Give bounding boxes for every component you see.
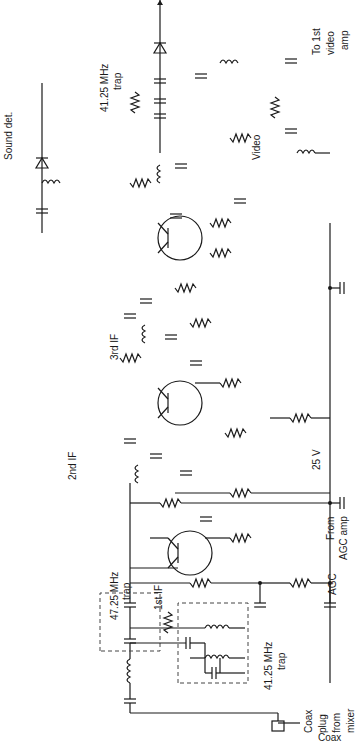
label-output-2: video — [325, 31, 336, 55]
label-q2: 2nd IF — [67, 452, 78, 480]
resistor-ra10 — [130, 579, 260, 587]
label-output-1: To 1st — [311, 28, 322, 55]
capacitor-ca14 — [200, 517, 212, 521]
inductor-la54 — [220, 60, 238, 63]
capacitor-ca18 — [180, 471, 192, 475]
inductor-la76 — [297, 150, 330, 153]
resistor-ra6 — [164, 612, 172, 633]
transistor-q3 — [158, 216, 202, 260]
label-trap-video-1: 41.25 MHz — [99, 64, 110, 112]
capacitor-ca11 — [254, 583, 266, 607]
inductor-la20 — [130, 465, 138, 493]
inductor-la28 — [142, 325, 145, 343]
inductor-la39 — [157, 165, 160, 183]
inductor-la8 — [130, 625, 245, 628]
transistor-q2 — [158, 381, 202, 425]
resistor-ra33 — [175, 284, 196, 292]
label-q1: 1st IF — [153, 585, 164, 610]
capacitor-ca22 — [150, 454, 162, 458]
resistor-ra16 — [130, 499, 330, 507]
label-trap-4725-2: trap — [121, 582, 132, 600]
resistor-ra48 — [131, 92, 139, 113]
capacitor-ca4 — [124, 603, 136, 607]
label-coax-1: Coax — [303, 710, 314, 733]
label-agc: AGC — [327, 573, 338, 595]
label-output-3: amp — [339, 30, 350, 50]
label-q3: 3rd IF — [109, 334, 120, 360]
resistor-ra13 — [205, 534, 251, 542]
capacitor-ca1 — [124, 683, 278, 713]
trap-41-25-input-box — [178, 603, 248, 683]
resistor-ra23 — [225, 429, 246, 437]
capacitor-ca21 — [124, 439, 136, 443]
resistor-ra67 — [271, 97, 279, 118]
capacitor-ca29 — [124, 314, 136, 318]
resistor-ra27 — [120, 354, 141, 362]
resistor-ra38 — [130, 179, 151, 187]
inductor-la42 — [42, 180, 60, 183]
label-agc-amp: AGC amp — [338, 516, 349, 560]
capacitor-ca51 — [195, 74, 207, 78]
inductor-la2 — [127, 647, 130, 683]
resistor-ra35 — [210, 219, 231, 227]
capacitor-ca7 — [205, 667, 245, 679]
capacitor-ca31 — [140, 299, 152, 303]
capacitor-ca30 — [165, 335, 177, 339]
capacitor-ca70 — [330, 282, 344, 294]
resistor-ra68 — [230, 134, 251, 142]
transistor-q1 — [130, 531, 212, 575]
label-coax-3: from — [331, 713, 342, 733]
capacitor-ca72 — [330, 497, 344, 509]
capacitor-ca69 — [285, 129, 297, 133]
resistor-ra25 — [195, 379, 241, 387]
capacitor-ca40 — [175, 164, 187, 168]
resistor-ra34 — [210, 249, 231, 257]
capacitor-ca36 — [234, 199, 246, 203]
label-agc-from: From — [325, 517, 336, 540]
output-arrow-icon — [157, 0, 163, 5]
label-trap-video-2: trap — [112, 72, 123, 90]
resistor-ra32 — [190, 319, 211, 327]
coax-plug — [272, 713, 284, 731]
label-coax-2: plug — [317, 714, 328, 733]
capacitor-ca73 — [130, 637, 205, 649]
label-coax-4: mixer — [345, 708, 356, 733]
resistor-ra17 — [175, 489, 330, 497]
label-video: Video — [251, 134, 262, 160]
label-trap-4125-in-2: trap — [276, 652, 287, 670]
capacitor-ca26 — [190, 361, 202, 365]
label-supply: 25 V — [311, 449, 322, 470]
resistor-ra71 — [270, 414, 330, 422]
resistor-ra12 — [260, 579, 330, 587]
inductor-la9 — [190, 655, 245, 658]
label-trap-4125-in-1: 41.25 MHz — [263, 642, 274, 690]
label-sound-det: Sound det. — [3, 112, 14, 160]
schematic-diagram: Coax — [0, 0, 361, 743]
label-trap-4725-1: 47.25 MHz — [109, 572, 120, 620]
capacitor-ca52 — [285, 59, 297, 63]
